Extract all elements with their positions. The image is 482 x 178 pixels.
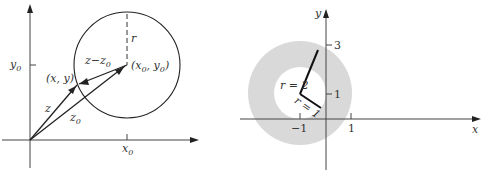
right-y-axis-arrow-icon [323,9,329,18]
figure-canvas: y0 x0 r z−z0 (x, y) (x0, y0) z z0 3 1 −1… [0,0,482,178]
tick-y1-label: 1 [334,88,341,101]
right-figure: 3 1 −1 1 x y r = 2 r = 1 [240,7,481,170]
right-x-axis-arrow-icon [472,116,481,122]
x-axis-label: x [472,123,479,136]
vector-z-arrow-icon [68,86,76,94]
z0-label: z0 [69,111,81,126]
z-minus-z0-label: z−z0 [84,54,111,69]
radius-label: r [131,32,137,45]
left-y-axis-arrow-icon [27,4,33,13]
x0-label: x0 [122,142,133,157]
left-figure: y0 x0 r z−z0 (x, y) (x0, y0) z z0 [2,4,199,168]
outer-radius-label: r = 2 [280,79,308,92]
tick-x-minus1-label: −1 [291,122,307,135]
center-label: (x0, y0) [131,59,169,74]
left-x-axis-arrow-icon [190,137,199,143]
tick-y3-label: 3 [334,39,341,52]
y0-label: y0 [9,58,21,73]
tick-x1-label: 1 [348,122,355,135]
y-axis-label: y [314,7,322,20]
z-label: z [44,102,51,115]
vector-z-minus-z0-arrow-icon [79,78,89,85]
point-xy-label: (x, y) [46,72,74,85]
